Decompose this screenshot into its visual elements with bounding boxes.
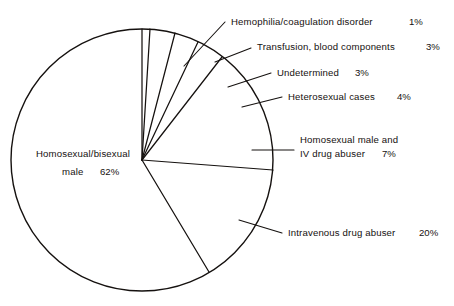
slice-value-iv-drug-abuser: 20% [419,227,439,238]
slice-label-undetermined: Undetermined [277,67,339,78]
slice-label-transfusion: Transfusion, blood components [257,41,395,52]
slice-value-homosexual-male: 62% [100,166,120,177]
slice-label-homosexual-male-line1: Homosexual/bisexual [36,148,130,159]
pie-chart-svg: Hemophilia/coagulation disorder 1% Trans… [0,0,454,306]
slice-label-homosexual-male-line2: male [62,166,83,177]
slice-value-transfusion: 3% [426,41,440,52]
pie-chart-figure: Hemophilia/coagulation disorder 1% Trans… [0,0,454,306]
slice-value-heterosexual: 4% [397,91,411,102]
slice-value-homosexual-iv: 7% [382,148,396,159]
slice-value-undetermined: 3% [355,67,369,78]
slice-label-homosexual-iv-line1: Homosexual male and [300,134,398,145]
slice-label-heterosexual: Heterosexual cases [288,91,375,102]
slice-label-homosexual-iv-line2: IV drug abuser [300,148,366,159]
slice-label-hemophilia: Hemophilia/coagulation disorder [231,16,373,27]
slice-label-iv-drug-abuser: Intravenous drug abuser [288,227,396,238]
slice-value-hemophilia: 1% [409,16,423,27]
